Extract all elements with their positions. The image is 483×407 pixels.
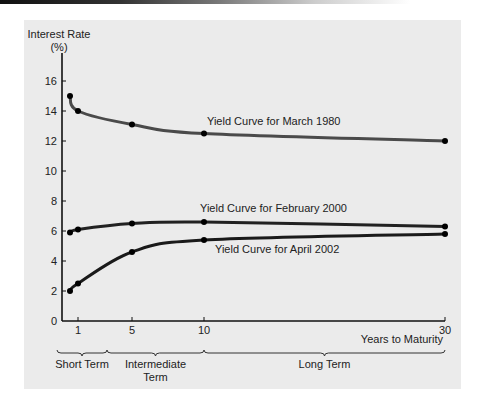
- data-point: [442, 138, 448, 144]
- term-label: Short Term: [55, 358, 109, 370]
- data-point: [75, 108, 81, 114]
- data-point: [442, 224, 448, 230]
- y-axis-title-line: Interest Rate: [28, 28, 91, 40]
- data-point: [201, 237, 207, 243]
- series-label: Yield Curve for February 2000: [200, 202, 347, 214]
- term-group: IntermediateTerm: [107, 350, 204, 383]
- series-3: Yield Curve for April 2002: [67, 231, 448, 294]
- data-point: [129, 221, 135, 227]
- y-tick-label: 6: [51, 225, 57, 237]
- data-point: [67, 288, 73, 294]
- term-groups: Short TermIntermediateTermLong Term: [55, 350, 445, 383]
- brace-icon: [57, 350, 107, 356]
- series-1: Yield Curve for March 1980: [67, 93, 448, 144]
- x-axis-title: Years to Maturity: [361, 333, 444, 345]
- series-label: Yield Curve for April 2002: [215, 243, 339, 255]
- data-point: [67, 93, 73, 99]
- data-point: [75, 227, 81, 233]
- y-tick-label: 8: [51, 195, 57, 207]
- series-line: [70, 222, 445, 233]
- y-tick-label: 16: [45, 75, 57, 87]
- x-tick-label: 10: [198, 324, 210, 336]
- term-group: Long Term: [204, 350, 445, 370]
- yield-curve-chart: Interest Rate(%) 0246810121416 151030 Ye…: [0, 0, 483, 407]
- term-label: Long Term: [299, 358, 351, 370]
- term-label: Term: [143, 371, 167, 383]
- series-2: Yield Curve for February 2000: [67, 202, 448, 236]
- data-point: [129, 122, 135, 128]
- data-point: [442, 231, 448, 237]
- series-group: Yield Curve for March 1980Yield Curve fo…: [67, 93, 448, 294]
- data-point: [201, 219, 207, 225]
- y-tick-label: 4: [51, 255, 57, 267]
- data-point: [201, 131, 207, 137]
- y-axis-title-line: (%): [50, 41, 67, 53]
- y-tick-label: 12: [45, 135, 57, 147]
- data-point: [129, 249, 135, 255]
- term-group: Short Term: [55, 350, 109, 370]
- data-point: [67, 230, 73, 236]
- axes: [62, 53, 445, 321]
- term-label: Intermediate: [125, 358, 186, 370]
- y-tick-label: 14: [45, 105, 57, 117]
- y-axis-ticks: 0246810121416: [45, 75, 66, 327]
- y-tick-label: 10: [45, 165, 57, 177]
- y-tick-label: 2: [51, 285, 57, 297]
- y-tick-label: 0: [51, 315, 57, 327]
- x-tick-label: 5: [129, 324, 135, 336]
- x-tick-label: 1: [75, 324, 81, 336]
- series-label: Yield Curve for March 1980: [207, 115, 341, 127]
- y-axis-title: Interest Rate(%): [28, 28, 91, 53]
- brace-icon: [204, 350, 445, 356]
- data-point: [75, 281, 81, 287]
- brace-icon: [107, 350, 204, 356]
